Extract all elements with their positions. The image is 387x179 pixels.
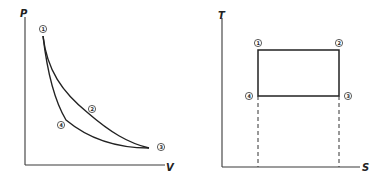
svg-text:3: 3: [160, 144, 164, 150]
thermo-diagrams: P V 1 2 3 4 T S 1: [0, 0, 387, 179]
ts-state-1: 1: [254, 39, 261, 46]
t-axis-label: T: [218, 10, 226, 21]
svg-text:1: 1: [257, 40, 261, 46]
v-axis-label: V: [166, 162, 175, 173]
pv-state-2: 2: [88, 105, 95, 112]
pv-state-1: 1: [39, 25, 46, 32]
ts-diagram: T S 1 2 3 4: [218, 10, 369, 173]
process-curve-1-4-3: [43, 36, 149, 148]
svg-text:1: 1: [42, 26, 46, 32]
p-axis-label: P: [20, 8, 28, 19]
ts-state-4: 4: [245, 92, 252, 99]
svg-text:4: 4: [60, 122, 64, 128]
process-curve-1-2-3: [43, 36, 149, 148]
svg-text:4: 4: [248, 93, 252, 99]
svg-text:3: 3: [347, 93, 351, 99]
pv-state-3: 3: [157, 143, 164, 150]
ts-state-3: 3: [344, 92, 351, 99]
ts-state-2: 2: [335, 39, 342, 46]
s-axis-label: S: [362, 162, 369, 173]
pv-state-4: 4: [57, 121, 64, 128]
svg-text:2: 2: [91, 106, 95, 112]
pv-diagram: P V 1 2 3 4: [20, 8, 175, 173]
svg-text:2: 2: [338, 40, 342, 46]
carnot-cycle-rectangle: [258, 50, 339, 96]
